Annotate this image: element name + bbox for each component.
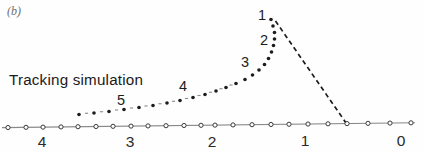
axis-marker-circle xyxy=(41,125,45,129)
axis-marker-circle xyxy=(306,122,310,126)
axis-marker-circle xyxy=(269,122,273,126)
axis-marker-circle xyxy=(366,121,370,125)
trajectory-time-label: 1 xyxy=(258,7,266,23)
trajectory-dot xyxy=(214,89,218,93)
ground-axis-line xyxy=(2,123,415,128)
trajectory-dot xyxy=(269,18,273,22)
axis-marker-circle xyxy=(59,125,63,129)
trajectory-dot xyxy=(165,101,169,105)
descent-dashed-line xyxy=(276,21,347,123)
trajectory-dot xyxy=(122,108,126,112)
axis-marker-circle xyxy=(345,121,349,125)
axis-marker-circle xyxy=(250,123,254,127)
panel-label: (b) xyxy=(7,4,21,19)
axis-tick-label: 4 xyxy=(38,133,47,150)
axis-tick-label: 3 xyxy=(126,133,135,150)
axis-tick-label: 1 xyxy=(301,132,310,149)
axis-marker-circle xyxy=(76,125,80,129)
axis-marker-circle xyxy=(146,124,150,128)
axis-marker-circle xyxy=(182,123,186,127)
trajectory-dot xyxy=(77,113,81,117)
axis-marker-circle xyxy=(199,123,203,127)
axis-marker-circle xyxy=(409,121,413,125)
trajectory-dot xyxy=(272,44,276,48)
trajectory-dot xyxy=(107,110,111,114)
axis-marker-circle xyxy=(94,124,98,128)
trajectory-dot xyxy=(267,57,271,61)
axis-tick-label: 2 xyxy=(208,133,217,150)
trajectory-dot xyxy=(273,31,277,35)
axis-marker-circle xyxy=(111,124,115,128)
axis-marker-circle xyxy=(164,124,168,128)
axis-marker-circle xyxy=(231,123,235,127)
trajectory-dot xyxy=(257,68,261,72)
trajectory-time-label: 5 xyxy=(117,92,125,108)
axis-tick-label: 0 xyxy=(397,132,406,149)
trajectory-dot xyxy=(137,106,141,110)
trajectory-dot xyxy=(151,104,155,108)
trajectory-dot xyxy=(263,63,267,67)
trajectory-dot xyxy=(234,82,238,86)
trajectory-dot xyxy=(92,111,96,115)
trajectory-dot xyxy=(178,99,182,103)
trajectory-dot xyxy=(270,50,274,54)
trajectory-dot xyxy=(273,37,277,41)
axis-marker-circle xyxy=(6,125,10,129)
trajectory-time-label: 3 xyxy=(241,54,249,70)
chart-title: Tracking simulation xyxy=(9,71,143,88)
figure-tracking-simulation: 4321012345 (b) Tracking simulation xyxy=(0,0,423,153)
trajectory-dot xyxy=(271,24,275,28)
axis-marker-circle xyxy=(326,122,330,126)
axis-marker-circle xyxy=(287,122,291,126)
trajectory-dot xyxy=(224,86,228,90)
axis-marker-circle xyxy=(388,121,392,125)
axis-marker-circle xyxy=(129,124,133,128)
trajectory-time-label: 2 xyxy=(260,32,268,48)
trajectory-dot xyxy=(243,78,247,82)
trajectory-dot xyxy=(191,96,195,100)
axis-marker-circle xyxy=(24,125,28,129)
trajectory-dot xyxy=(251,73,255,77)
trajectory-time-label: 4 xyxy=(179,78,187,94)
trajectory-dot xyxy=(203,93,207,97)
axis-marker-circle xyxy=(213,123,217,127)
